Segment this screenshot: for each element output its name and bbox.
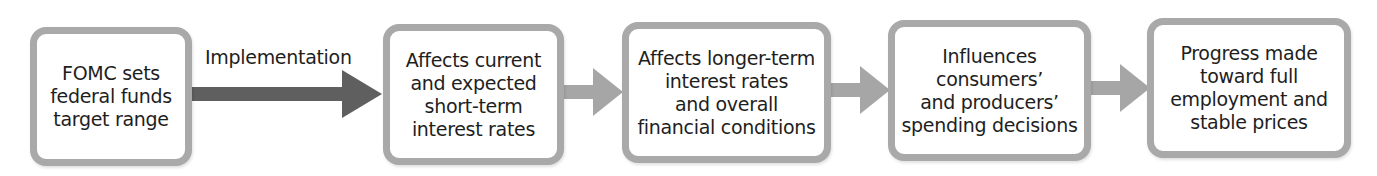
implementation-arrow — [188, 66, 384, 122]
node-label: Affects current and expected short-term … — [406, 49, 541, 141]
node-short-term-rates: Affects current and expected short-term … — [383, 24, 564, 165]
flow-arrow-3 — [828, 64, 892, 116]
node-long-term-rates: Affects longer-term interest rates and o… — [622, 22, 831, 163]
node-label: Progress made toward full employment and… — [1170, 42, 1328, 134]
node-label: Affects longer-term interest rates and o… — [637, 47, 815, 139]
node-spending-decisions: Influences consumers’ and producers’ spe… — [888, 20, 1091, 161]
node-fomc-sets-target: FOMC sets federal funds target range — [30, 27, 192, 166]
node-label: FOMC sets federal funds target range — [50, 62, 172, 131]
node-label: Influences consumers’ and producers’ spe… — [902, 45, 1078, 137]
flow-arrow-4 — [1088, 62, 1152, 114]
node-policy-goals: Progress made toward full employment and… — [1147, 18, 1351, 158]
flow-arrow-2 — [561, 66, 625, 118]
implementation-label: Implementation — [205, 46, 352, 68]
